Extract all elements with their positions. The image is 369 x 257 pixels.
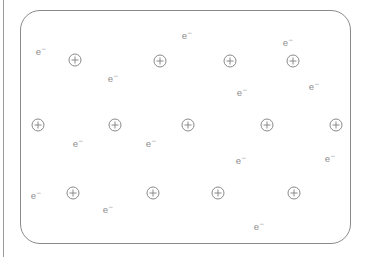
electron-label: e− bbox=[73, 138, 83, 149]
positive-ion-icon bbox=[330, 119, 342, 131]
electron-label: e− bbox=[237, 87, 247, 98]
electron-label: e− bbox=[182, 30, 192, 41]
electron-label: e− bbox=[146, 138, 156, 149]
electron-label: e− bbox=[309, 81, 319, 92]
positive-ion-icon bbox=[67, 187, 79, 199]
electron-label: e− bbox=[36, 46, 46, 57]
electron-label: e− bbox=[108, 73, 118, 84]
positive-ion-icon bbox=[212, 187, 224, 199]
positive-ion-icon bbox=[109, 119, 121, 131]
positive-ion-icon bbox=[182, 119, 194, 131]
positive-ion-icon bbox=[32, 119, 44, 131]
positive-ion-icon bbox=[147, 187, 159, 199]
positive-ion-icon bbox=[287, 55, 299, 67]
positive-ion-icon bbox=[224, 55, 236, 67]
electron-label: e− bbox=[325, 153, 335, 164]
electron-label: e− bbox=[283, 37, 293, 48]
electron-label: e− bbox=[103, 204, 113, 215]
electron-label: e− bbox=[236, 155, 246, 166]
positive-ion-icon bbox=[69, 54, 81, 66]
positive-ion-icon bbox=[261, 119, 273, 131]
electron-label: e− bbox=[31, 190, 41, 201]
positive-ion-icon bbox=[154, 55, 166, 67]
electron-label: e− bbox=[254, 221, 264, 232]
positive-ion-icon bbox=[288, 187, 300, 199]
